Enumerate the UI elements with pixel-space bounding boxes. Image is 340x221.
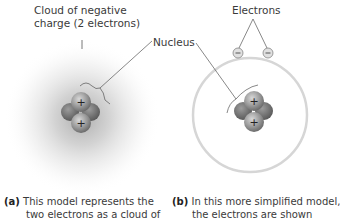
nucleus-b: + + (234, 91, 273, 132)
caption-a-line2: two electrons as a cloud of (26, 209, 160, 221)
caption-b-line1: (b) In this more simplified model, (172, 196, 340, 208)
nucleus-label: Nucleus (153, 36, 195, 48)
electron-left (233, 48, 243, 58)
caption-b-marker: (b) (172, 196, 188, 207)
caption-b-line2: the electrons are shown (192, 209, 312, 221)
electrons-label: Electrons (232, 4, 281, 16)
svg-text:+: + (76, 96, 85, 109)
svg-text:+: + (249, 116, 258, 129)
caption-a-marker: (a) (4, 196, 20, 207)
svg-text:+: + (249, 95, 258, 108)
electron-right (263, 48, 273, 58)
caption-a-line1: (a) This model represents the (4, 196, 154, 208)
cloud-label-line2: charge (2 electrons) (34, 17, 140, 29)
cloud-label-line1: Cloud of negative (34, 4, 127, 16)
svg-text:+: + (76, 117, 85, 130)
